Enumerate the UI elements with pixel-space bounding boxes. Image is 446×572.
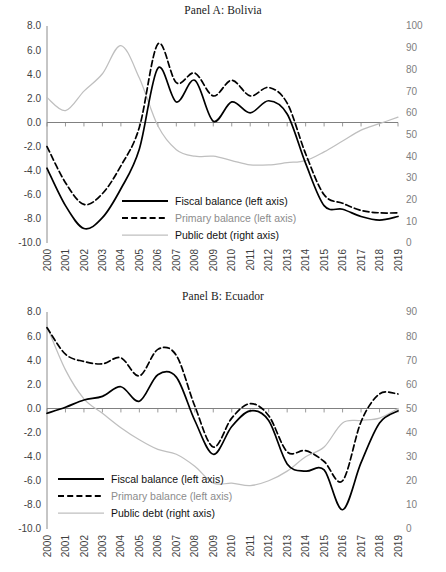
x-axis-tick-label: 2013 xyxy=(282,249,293,272)
left-axis-tick-label: 0.0 xyxy=(27,117,41,128)
legend-label: Public debt (right axis) xyxy=(111,507,215,519)
right-axis-tick-label: 80 xyxy=(406,64,418,75)
left-axis-tick-label: -8.0 xyxy=(24,213,42,224)
right-axis-tick-label: 60 xyxy=(406,379,418,390)
x-axis-tick-label: 2007 xyxy=(171,249,182,272)
right-axis-tick-label: 40 xyxy=(406,151,418,162)
panel-a-plot: -10.0-8.0-6.0-4.0-2.00.02.04.06.08.00102… xyxy=(0,0,446,286)
series-line xyxy=(47,43,398,213)
x-axis-tick-label: 2001 xyxy=(60,535,71,558)
x-axis-tick-label: 2015 xyxy=(319,535,330,558)
x-axis-tick-label: 2012 xyxy=(263,535,274,558)
x-axis-tick-label: 2013 xyxy=(282,535,293,558)
x-axis-tick-label: 2001 xyxy=(60,249,71,272)
panel-b-plot: -10.0-8.0-6.0-4.0-2.00.02.04.06.08.00102… xyxy=(0,286,446,572)
x-axis-tick-label: 2014 xyxy=(300,535,311,558)
right-axis-tick-label: 90 xyxy=(406,306,418,317)
x-axis-tick-label: 2019 xyxy=(393,249,404,272)
x-axis-tick-label: 2017 xyxy=(356,535,367,558)
left-axis-tick-label: 6.0 xyxy=(27,331,41,342)
x-axis-tick-label: 2003 xyxy=(97,535,108,558)
series-line xyxy=(47,326,398,485)
left-axis-tick-label: 4.0 xyxy=(27,355,41,366)
x-axis-tick-label: 2003 xyxy=(97,249,108,272)
right-axis-tick-label: 0 xyxy=(406,523,412,534)
left-axis-tick-label: 8.0 xyxy=(27,306,41,317)
x-axis-tick-label: 2018 xyxy=(374,249,385,272)
x-axis-tick-label: 2015 xyxy=(319,249,330,272)
x-axis-tick-label: 2014 xyxy=(300,249,311,272)
left-axis-tick-label: -6.0 xyxy=(24,475,42,486)
series-line xyxy=(47,46,398,166)
left-axis-tick-label: 2.0 xyxy=(27,93,41,104)
left-axis-tick-label: -4.0 xyxy=(24,451,42,462)
x-axis-tick-label: 2009 xyxy=(208,535,219,558)
chart-panel-b: Panel B: Ecuador -10.0-8.0-6.0-4.0-2.00.… xyxy=(0,286,446,572)
right-axis-tick-label: 10 xyxy=(406,499,418,510)
x-axis-tick-label: 2002 xyxy=(79,249,90,272)
x-axis-tick-label: 2007 xyxy=(171,535,182,558)
left-axis-tick-label: 2.0 xyxy=(27,379,41,390)
left-axis-tick-label: -10.0 xyxy=(18,523,41,534)
legend-label: Fiscal balance (left axis) xyxy=(175,195,288,207)
left-axis-tick-label: -8.0 xyxy=(24,499,42,510)
x-axis-tick-label: 2006 xyxy=(152,249,163,272)
right-axis-tick-label: 20 xyxy=(406,475,418,486)
legend-label: Primary balance (left axis) xyxy=(175,212,296,224)
left-axis-tick-label: -2.0 xyxy=(24,427,42,438)
figure-fiscal-balance-public-debt: Panel A: Bolivia -10.0-8.0-6.0-4.0-2.00.… xyxy=(0,0,446,572)
right-axis-tick-label: 60 xyxy=(406,107,418,118)
x-axis-tick-label: 2000 xyxy=(42,249,53,272)
x-axis-tick-label: 2016 xyxy=(337,249,348,272)
x-axis-tick-label: 2005 xyxy=(134,249,145,272)
right-axis-tick-label: 50 xyxy=(406,129,418,140)
series-line xyxy=(47,328,398,482)
right-axis-tick-label: 70 xyxy=(406,86,418,97)
left-axis-tick-label: 6.0 xyxy=(27,45,41,56)
right-axis-tick-label: 100 xyxy=(406,20,423,31)
x-axis-tick-label: 2000 xyxy=(42,535,53,558)
right-axis-tick-label: 80 xyxy=(406,331,418,342)
x-axis-tick-label: 2005 xyxy=(134,535,145,558)
right-axis-tick-label: 20 xyxy=(406,194,418,205)
left-axis-tick-label: 0.0 xyxy=(27,403,41,414)
x-axis-tick-label: 2011 xyxy=(245,249,256,271)
x-axis-tick-label: 2019 xyxy=(393,535,404,558)
legend-label: Fiscal balance (left axis) xyxy=(111,473,224,485)
legend-label: Public debt (right axis) xyxy=(175,229,279,241)
left-axis-tick-label: -4.0 xyxy=(24,165,42,176)
x-axis-tick-label: 2017 xyxy=(356,249,367,272)
right-axis-tick-label: 30 xyxy=(406,172,418,183)
left-axis-tick-label: 8.0 xyxy=(27,20,41,31)
x-axis-tick-label: 2006 xyxy=(152,535,163,558)
left-axis-tick-label: -2.0 xyxy=(24,141,42,152)
x-axis-tick-label: 2012 xyxy=(263,249,274,272)
x-axis-tick-label: 2004 xyxy=(115,535,126,558)
right-axis-tick-label: 0 xyxy=(406,237,412,248)
x-axis-tick-label: 2002 xyxy=(79,535,90,558)
right-axis-tick-label: 90 xyxy=(406,42,418,53)
x-axis-tick-label: 2008 xyxy=(189,249,200,272)
x-axis-tick-label: 2004 xyxy=(115,249,126,272)
legend-label: Primary balance (left axis) xyxy=(111,490,232,502)
x-axis-tick-label: 2009 xyxy=(208,249,219,272)
x-axis-tick-label: 2010 xyxy=(226,535,237,558)
x-axis-tick-label: 2008 xyxy=(189,535,200,558)
chart-panel-a: Panel A: Bolivia -10.0-8.0-6.0-4.0-2.00.… xyxy=(0,0,446,286)
x-axis-tick-label: 2016 xyxy=(337,535,348,558)
left-axis-tick-label: -10.0 xyxy=(18,237,41,248)
x-axis-tick-label: 2010 xyxy=(226,249,237,272)
right-axis-tick-label: 50 xyxy=(406,403,418,414)
x-axis-tick-label: 2018 xyxy=(374,535,385,558)
right-axis-tick-label: 10 xyxy=(406,216,418,227)
right-axis-tick-label: 30 xyxy=(406,451,418,462)
left-axis-tick-label: -6.0 xyxy=(24,189,42,200)
right-axis-tick-label: 70 xyxy=(406,355,418,366)
x-axis-tick-label: 2011 xyxy=(245,535,256,557)
left-axis-tick-label: 4.0 xyxy=(27,69,41,80)
right-axis-tick-label: 40 xyxy=(406,427,418,438)
